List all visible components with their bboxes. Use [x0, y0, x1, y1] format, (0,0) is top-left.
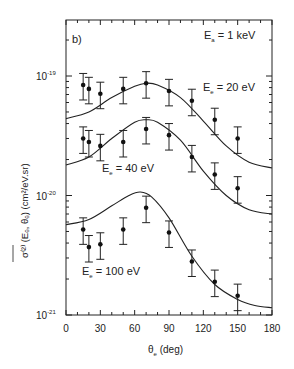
data-point — [119, 218, 127, 245]
data-point — [142, 196, 150, 223]
data-point — [96, 134, 104, 161]
data-point — [96, 82, 104, 109]
data-point — [142, 72, 150, 99]
xtick-label: 90 — [163, 323, 175, 334]
data-point — [211, 163, 219, 190]
data-point — [96, 233, 104, 260]
data-point — [119, 130, 127, 157]
xtick-label: 60 — [129, 323, 141, 334]
xtick-label: 0 — [63, 323, 69, 334]
y-axis-label: σ⁽²⁾ (Eₑ, θₑ) (cm²/eV.sr) — [19, 163, 30, 258]
series-label-40ev: Ee = 40 eV — [102, 162, 155, 176]
xtick-label: 120 — [195, 323, 212, 334]
data-point — [85, 236, 93, 263]
data-point — [188, 250, 196, 277]
series-label-100ev: Ee = 100 eV — [82, 265, 141, 279]
xtick-label: 150 — [229, 323, 246, 334]
data-point — [142, 117, 150, 144]
data-point — [165, 79, 173, 106]
data-point — [211, 270, 219, 297]
ytick-label-1e-21: 10-21 — [36, 309, 56, 321]
data-point — [165, 221, 173, 248]
beam-energy-label: Ea = 1 keV — [204, 29, 256, 43]
ytick-label-1e-20: 10-20 — [36, 190, 56, 202]
series-label-20ev: Ee = 20 eV — [203, 81, 256, 95]
xtick-label: 30 — [95, 323, 107, 334]
data-point — [234, 127, 242, 154]
xtick-label: 180 — [264, 323, 281, 334]
x-axis-tick-labels: 0306090120150180 — [63, 323, 281, 334]
theory-curve — [66, 192, 272, 308]
x-axis-label: θe (deg) — [148, 344, 183, 357]
cross-section-chart: b) Ea = 1 keV Ee = 20 eV Ee = 40 eV Ee =… — [0, 0, 294, 369]
data-point — [234, 177, 242, 204]
panel-label: b) — [72, 33, 82, 45]
ytick-label-1e-19: 10-19 — [36, 70, 56, 82]
